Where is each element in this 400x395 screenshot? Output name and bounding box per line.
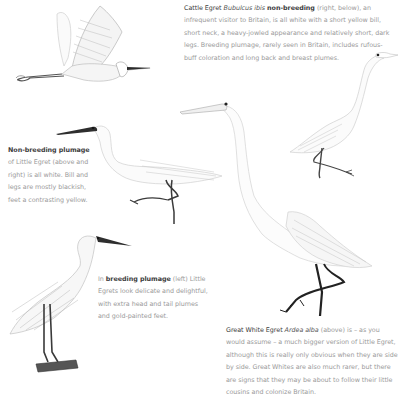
breeding-caption: In breeding plumage (left) Little Egrets…	[98, 273, 210, 323]
caption-lead: breeding plumage	[106, 275, 171, 283]
caption-body: (right, below), an infrequent visitor to…	[184, 4, 389, 62]
caption-body: (above) is – as you would assume – a muc…	[226, 326, 398, 395]
caption-species: Cattle Egret	[184, 4, 222, 12]
caption-latin-name: Bubulcus ibis	[224, 4, 266, 12]
cattle-egret-standing-illustration	[290, 53, 398, 179]
field-guide-page: Cattle Egret Bubulcus ibis non-breeding …	[0, 0, 400, 395]
little-egret-flying-illustration	[16, 6, 151, 81]
caption-lead: Non-breeding plumage	[8, 146, 90, 154]
caption-lead: non-breeding	[267, 4, 315, 12]
caption-species: Great White Egret	[226, 326, 283, 334]
caption-latin-name: Ardea alba	[285, 326, 319, 334]
great-white-egret-caption: Great White Egret Ardea alba (above) is …	[226, 324, 398, 395]
non-breeding-caption: Non-breeding plumage of Little Egret (ab…	[8, 144, 92, 206]
caption-body: of Little Egret (above and right) is all…	[8, 158, 88, 203]
cattle-egret-caption: Cattle Egret Bubulcus ibis non-breeding …	[184, 2, 394, 64]
caption-prefix: In	[98, 275, 104, 283]
